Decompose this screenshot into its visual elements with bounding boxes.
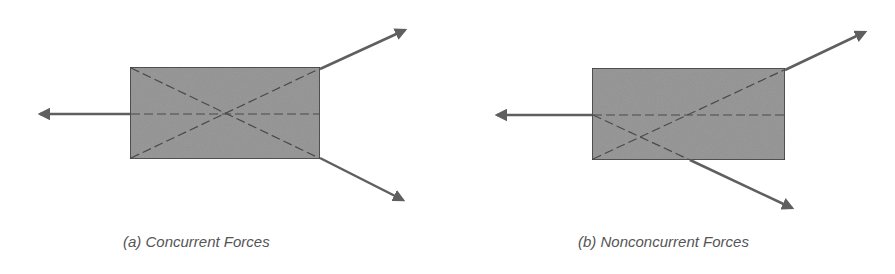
force-arrow-lower-right-a (320, 158, 403, 200)
caption-nonconcurrent-forces: (b) Nonconcurrent Forces (578, 233, 749, 250)
force-arrow-upper-right-a (320, 30, 405, 69)
panel-concurrent-forces (40, 30, 405, 200)
caption-concurrent-forces: (a) Concurrent Forces (123, 233, 270, 250)
panel-nonconcurrent-forces (497, 32, 865, 208)
force-arrow-upper-right-b (785, 32, 865, 70)
force-arrow-lower-right-b (690, 160, 792, 208)
